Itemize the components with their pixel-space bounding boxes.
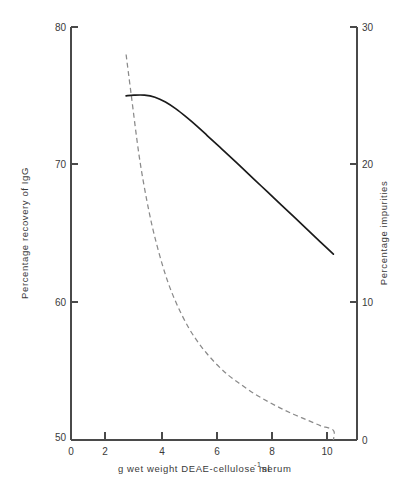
right-tick-label-0: 0	[362, 435, 368, 446]
right-tick-labels: 30 20 10 0	[362, 22, 374, 446]
left-tick-label-70: 70	[55, 159, 67, 170]
right-tick-label-20: 20	[362, 159, 374, 170]
x-axis-title-group: g wet weight DEAE-cellulose ml -1 serum	[118, 461, 291, 474]
x-tick-label-10: 10	[321, 446, 333, 457]
bottom-tick-labels: 0 2 4 6 8 10	[68, 446, 333, 457]
x-tick-label-4: 4	[159, 446, 165, 457]
right-tick-label-30: 30	[362, 22, 374, 33]
y-axis-title-right: Percentage impurities	[378, 181, 389, 285]
left-tick-label-60: 60	[55, 297, 67, 308]
x-tick-label-2: 2	[102, 446, 108, 457]
series-percentage-recovery-igg	[126, 95, 333, 254]
series-percentage-impurities	[126, 55, 334, 440]
x-tick-label-0: 0	[68, 446, 74, 457]
chart-canvas: 80 70 60 50 30 20 10 0 0 2 4 6 8 10 Perc…	[0, 0, 399, 486]
x-axis-title-superscript: -1	[254, 461, 261, 468]
bottom-axis-ticks	[105, 432, 327, 440]
left-tick-label-50: 50	[55, 432, 67, 443]
right-axis-ticks	[350, 27, 357, 302]
x-axis-title-main: g wet weight DEAE-cellulose ml	[118, 463, 270, 474]
left-tick-label-80: 80	[55, 22, 67, 33]
left-axis-ticks	[71, 27, 78, 302]
x-axis-title-tail: serum	[262, 463, 291, 474]
y-axis-title-left: Percentage recovery of IgG	[19, 167, 30, 299]
figure-container: 80 70 60 50 30 20 10 0 0 2 4 6 8 10 Perc…	[0, 0, 399, 486]
x-tick-label-8: 8	[269, 446, 275, 457]
x-tick-label-6: 6	[214, 446, 220, 457]
left-tick-labels: 80 70 60 50	[55, 22, 67, 443]
right-tick-label-10: 10	[362, 297, 374, 308]
